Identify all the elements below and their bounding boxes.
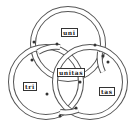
ring-right (55, 47, 125, 117)
label-center: unitas (57, 68, 85, 77)
label-top: uni (61, 28, 78, 37)
ring-left (11, 47, 81, 117)
label-left: tri (23, 82, 37, 91)
label-right: tas (99, 87, 115, 96)
